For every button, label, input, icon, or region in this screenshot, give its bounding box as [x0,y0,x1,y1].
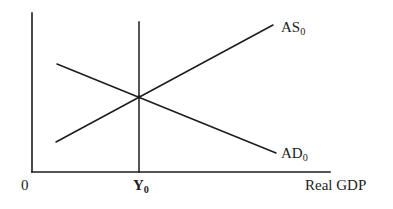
equilibrium-point-marker [137,95,141,99]
aggregate-demand-label: AD0 [281,146,308,161]
aggregate-supply-curve [56,25,273,142]
aggregate-supply-subscript: 0 [300,26,305,37]
ad-as-diagram-figure: 0 Y0 Real GDP AS0 AD0 [0,0,393,209]
curves-group [56,22,276,172]
x-axis-title: Real GDP [305,178,366,193]
aggregate-demand-subscript: 0 [303,152,308,163]
aggregate-demand-text: AD [281,145,303,161]
equilibrium-output-subscript: 0 [144,184,149,195]
equilibrium-output-letter: Y [133,177,144,193]
aggregate-supply-text: AS [281,19,300,35]
aggregate-supply-label: AS0 [281,20,305,35]
equilibrium-output-label: Y0 [133,178,149,193]
aggregate-demand-curve [57,64,276,153]
origin-label: 0 [21,178,29,193]
